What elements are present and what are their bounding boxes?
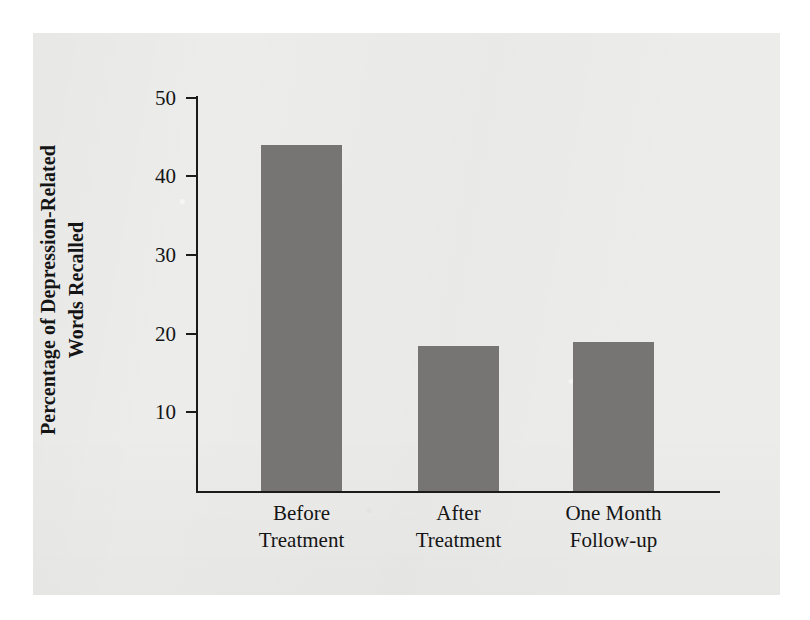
y-axis-title: Percentage of Depression-Related Words R… (34, 110, 90, 470)
y-axis-title-line-1: Percentage of Depression-Related (34, 110, 62, 470)
y-tick-label-50: 50 (130, 88, 176, 109)
y-tick-label-30: 30 (130, 245, 176, 266)
figure-canvas: Percentage of Depression-Related Words R… (0, 0, 810, 620)
y-axis-title-line-2: Words Recalled (62, 110, 90, 470)
y-tick-mark-10 (186, 411, 197, 413)
bar-chart-plot: Percentage of Depression-Related Words R… (0, 0, 810, 620)
x-axis-label-one-month-follow-up: One Month Follow-up (519, 500, 709, 554)
y-tick-label-20: 20 (130, 324, 176, 345)
y-tick-mark-50 (186, 97, 197, 99)
y-tick-mark-40 (186, 175, 197, 177)
bar-one-month-follow-up (573, 342, 654, 491)
y-tick-label-10: 10 (130, 402, 176, 423)
x-axis-line (196, 491, 720, 493)
y-tick-label-40: 40 (130, 166, 176, 187)
x-axis-label-one-month-follow-up-line-2: Follow-up (519, 527, 709, 554)
bar-before-treatment (261, 145, 342, 491)
y-tick-mark-30 (186, 254, 197, 256)
y-tick-mark-20 (186, 333, 197, 335)
bar-after-treatment (418, 346, 499, 491)
y-axis-line (196, 96, 198, 493)
x-axis-label-one-month-follow-up-line-1: One Month (519, 500, 709, 527)
